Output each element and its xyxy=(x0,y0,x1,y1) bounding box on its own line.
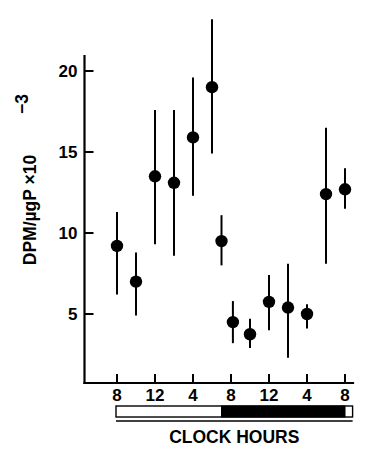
point-marker xyxy=(244,328,256,340)
point-marker xyxy=(263,296,275,308)
y-tick-label-20: 20 xyxy=(59,62,78,81)
point-marker xyxy=(215,235,227,247)
x-tick-label-12: 12 xyxy=(146,386,165,405)
point-marker xyxy=(227,316,239,328)
point-marker xyxy=(339,183,351,195)
data-point-1 xyxy=(130,252,142,315)
point-marker xyxy=(130,275,142,287)
photoperiod-segment-dark-1 xyxy=(222,406,346,417)
point-marker xyxy=(168,177,180,189)
y-axis-title: DPM/µgP ×10 −3 xyxy=(12,94,40,265)
y-tick-label-5: 5 xyxy=(68,305,77,324)
data-point-8 xyxy=(244,319,256,348)
data-point-5 xyxy=(206,19,218,153)
data-point-12 xyxy=(320,128,332,264)
point-marker xyxy=(206,81,218,93)
data-point-10 xyxy=(282,264,294,358)
point-marker xyxy=(301,308,313,320)
y-axis: 5101520 xyxy=(59,56,94,383)
y-axis-title-exponent: −3 xyxy=(12,94,32,114)
point-marker xyxy=(149,170,161,182)
point-marker xyxy=(320,188,332,200)
x-axis-ticks xyxy=(117,374,345,383)
point-marker xyxy=(187,131,199,143)
y-axis-tick-labels: 5101520 xyxy=(59,62,78,324)
data-point-9 xyxy=(263,275,275,330)
data-point-0 xyxy=(111,212,123,295)
x-tick-label-28: 4 xyxy=(302,386,312,405)
x-tick-label-8: 8 xyxy=(112,386,121,405)
y-tick-label-10: 10 xyxy=(59,224,78,243)
data-point-3 xyxy=(168,110,180,256)
data-point-7 xyxy=(227,301,239,343)
x-tick-label-32: 8 xyxy=(340,386,349,405)
photoperiod-bar xyxy=(116,406,353,421)
y-axis-ticks xyxy=(85,71,94,314)
data-point-4 xyxy=(187,77,199,195)
x-axis-tick-labels: 812481248 xyxy=(112,386,349,405)
data-points-layer xyxy=(111,19,351,358)
x-tick-label-16: 4 xyxy=(188,386,198,405)
figure-container: 5101520 812481248 CLOCK HOURS DPM/µgP ×1… xyxy=(0,0,369,457)
x-tick-label-24: 12 xyxy=(260,386,279,405)
x-axis-title: CLOCK HOURS xyxy=(169,427,299,447)
point-marker xyxy=(282,301,294,313)
scatter-plot: 5101520 812481248 CLOCK HOURS DPM/µgP ×1… xyxy=(0,0,369,457)
x-axis: 812481248 xyxy=(85,374,354,405)
y-tick-label-15: 15 xyxy=(59,143,78,162)
data-point-13 xyxy=(339,168,351,209)
y-axis-title-main: DPM/µgP ×10 xyxy=(20,155,40,266)
data-point-11 xyxy=(301,304,313,328)
point-marker xyxy=(111,240,123,252)
x-tick-label-20: 8 xyxy=(226,386,235,405)
data-point-6 xyxy=(215,215,227,265)
data-point-2 xyxy=(149,110,161,244)
